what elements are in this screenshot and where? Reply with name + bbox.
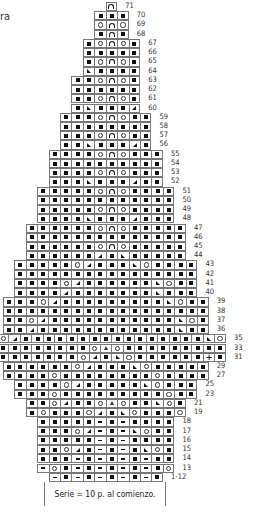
row-number-label: 61 bbox=[148, 93, 157, 102]
knit-stitch-filled-square-icon bbox=[146, 344, 157, 353]
knit-stitch-filled-square-icon bbox=[129, 380, 140, 389]
knit-stitch-filled-square-icon bbox=[180, 344, 191, 353]
knit-stitch-filled-square-icon bbox=[163, 325, 174, 334]
right-slant-decrease-icon bbox=[71, 445, 82, 454]
knit-stitch-filled-square-icon bbox=[83, 279, 94, 288]
dash-purl-icon bbox=[49, 473, 60, 482]
chart-row-48 bbox=[37, 214, 174, 223]
knit-stitch-filled-square-icon bbox=[83, 122, 94, 131]
knit-stitch-filled-square-icon bbox=[71, 177, 82, 186]
chart-row-36 bbox=[3, 325, 209, 334]
left-slant-decrease-icon bbox=[151, 279, 162, 288]
left-slant-decrease-icon bbox=[140, 380, 151, 389]
knit-stitch-filled-square-icon bbox=[94, 233, 105, 242]
knit-stitch-filled-square-icon bbox=[151, 150, 162, 159]
dash-purl-icon bbox=[71, 464, 82, 473]
yarn-over-circle-icon bbox=[117, 205, 128, 214]
left-slant-decrease-icon bbox=[117, 408, 128, 417]
knit-stitch-filled-square-icon bbox=[140, 307, 151, 316]
right-slant-decrease-icon bbox=[129, 177, 140, 186]
knit-stitch-filled-square-icon bbox=[151, 168, 162, 177]
knit-stitch-filled-square-icon bbox=[106, 445, 117, 454]
knit-stitch-filled-square-icon bbox=[197, 316, 208, 325]
knit-stitch-filled-square-icon bbox=[117, 159, 128, 168]
arch-decrease-icon bbox=[106, 94, 117, 103]
knit-stitch-filled-square-icon bbox=[60, 307, 71, 316]
knit-stitch-filled-square-icon bbox=[60, 325, 71, 334]
right-slant-decrease-icon bbox=[129, 214, 140, 223]
arch-decrease-icon bbox=[106, 205, 117, 214]
knit-stitch-filled-square-icon bbox=[60, 205, 71, 214]
knit-stitch-filled-square-icon bbox=[151, 297, 162, 306]
knit-stitch-filled-square-icon bbox=[111, 334, 122, 343]
knit-stitch-filled-square-icon bbox=[117, 279, 128, 288]
knit-stitch-filled-square-icon bbox=[60, 464, 71, 473]
right-slant-decrease-icon bbox=[60, 288, 71, 297]
knit-stitch-filled-square-icon bbox=[60, 113, 71, 122]
row-number-label: 29 bbox=[217, 361, 226, 370]
knit-stitch-filled-square-icon bbox=[37, 399, 48, 408]
knit-stitch-filled-square-icon bbox=[14, 279, 25, 288]
row-number-label: 37 bbox=[217, 315, 226, 324]
chart-row-67 bbox=[83, 39, 140, 48]
row-number-label: 52 bbox=[171, 176, 180, 185]
dash-purl-icon bbox=[94, 445, 105, 454]
knit-stitch-filled-square-icon bbox=[106, 454, 117, 463]
knit-stitch-filled-square-icon bbox=[174, 362, 185, 371]
knit-stitch-filled-square-icon bbox=[129, 436, 140, 445]
knit-stitch-filled-square-icon bbox=[106, 390, 117, 399]
knit-stitch-filled-square-icon bbox=[60, 417, 71, 426]
knit-stitch-filled-square-icon bbox=[151, 325, 162, 334]
knit-stitch-filled-square-icon bbox=[49, 427, 60, 436]
knit-stitch-filled-square-icon bbox=[83, 39, 94, 48]
knit-stitch-filled-square-icon bbox=[94, 11, 105, 20]
knit-stitch-filled-square-icon bbox=[174, 390, 185, 399]
knit-stitch-filled-square-icon bbox=[54, 334, 65, 343]
knit-stitch-filled-square-icon bbox=[37, 196, 48, 205]
knit-stitch-filled-square-icon bbox=[140, 270, 151, 279]
chart-row-15 bbox=[37, 445, 174, 454]
knit-stitch-filled-square-icon bbox=[117, 67, 128, 76]
knit-stitch-filled-square-icon bbox=[151, 224, 162, 233]
knit-stitch-filled-square-icon bbox=[140, 390, 151, 399]
knit-stitch-filled-square-icon bbox=[140, 279, 151, 288]
knit-stitch-filled-square-icon bbox=[94, 270, 105, 279]
knit-stitch-filled-square-icon bbox=[71, 325, 82, 334]
row-number-label: 60 bbox=[148, 103, 157, 112]
knit-stitch-filled-square-icon bbox=[71, 94, 82, 103]
chart-row-59 bbox=[60, 113, 152, 122]
knit-stitch-filled-square-icon bbox=[140, 436, 151, 445]
knit-stitch-filled-square-icon bbox=[71, 408, 82, 417]
row-number-label: 62 bbox=[148, 84, 157, 93]
knit-stitch-filled-square-icon bbox=[26, 380, 37, 389]
knit-stitch-filled-square-icon bbox=[37, 205, 48, 214]
knit-stitch-filled-square-icon bbox=[151, 177, 162, 186]
chart-row-68 bbox=[94, 30, 128, 39]
knit-stitch-filled-square-icon bbox=[157, 353, 168, 362]
knit-stitch-filled-square-icon bbox=[83, 76, 94, 85]
knit-stitch-filled-square-icon bbox=[129, 307, 140, 316]
knit-stitch-filled-square-icon bbox=[3, 297, 14, 306]
knit-stitch-filled-square-icon bbox=[163, 242, 174, 251]
knit-stitch-filled-square-icon bbox=[129, 39, 140, 48]
chart-row-49 bbox=[37, 205, 174, 214]
row-number-label: 41 bbox=[205, 278, 214, 287]
row-number-label: 48 bbox=[182, 213, 191, 222]
knit-stitch-filled-square-icon bbox=[71, 76, 82, 85]
knit-stitch-filled-square-icon bbox=[94, 85, 105, 94]
yarn-over-circle-icon bbox=[163, 279, 174, 288]
knit-stitch-filled-square-icon bbox=[94, 104, 105, 113]
chart-row-42 bbox=[14, 270, 197, 279]
knit-stitch-filled-square-icon bbox=[83, 187, 94, 196]
knit-stitch-filled-square-icon bbox=[89, 334, 100, 343]
knit-stitch-filled-square-icon bbox=[60, 168, 71, 177]
left-slant-decrease-icon bbox=[111, 353, 122, 362]
knit-stitch-filled-square-icon bbox=[174, 371, 185, 380]
knit-stitch-filled-square-icon bbox=[26, 260, 37, 269]
knit-stitch-filled-square-icon bbox=[106, 316, 117, 325]
right-slant-decrease-icon bbox=[60, 399, 71, 408]
chart-row-66 bbox=[83, 48, 140, 57]
knit-stitch-filled-square-icon bbox=[48, 279, 59, 288]
chart-row-54 bbox=[49, 159, 163, 168]
knit-stitch-filled-square-icon bbox=[129, 316, 140, 325]
